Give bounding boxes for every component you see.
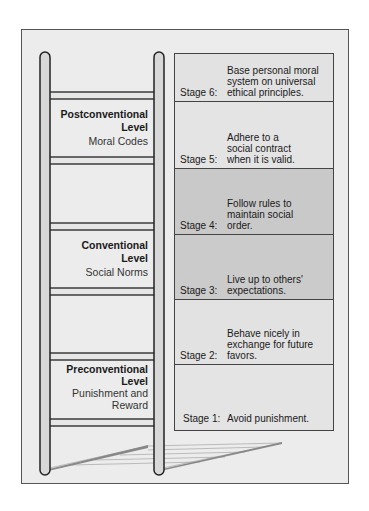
stage-3: Stage 3: Live up to others' expectations… [175, 235, 333, 300]
level-title-2: Level [81, 252, 148, 265]
stage-description: Avoid punishment. [227, 413, 332, 424]
stage-label: Stage 5: [180, 154, 217, 165]
level-title-2: Level [60, 121, 148, 134]
stage-label: Stage 2: [180, 350, 217, 361]
level-preconventional: Preconventional Level Punishment and Rew… [66, 363, 148, 411]
stage-description: Adhere to a social contract when it is v… [227, 132, 302, 165]
level-subtitle: Punishment and [66, 387, 148, 399]
stage-label: Stage 1: [183, 413, 220, 424]
level-postconventional: Postconventional Level Moral Codes [60, 108, 148, 148]
level-conventional: Conventional Level Social Norms [81, 239, 148, 279]
stage-5: Stage 5: Adhere to a social contract whe… [175, 102, 333, 169]
level-title: Preconventional [66, 363, 148, 375]
level-subtitle: Moral Codes [60, 135, 148, 148]
stage-label: Stage 3: [180, 285, 217, 296]
level-subtitle: Social Norms [81, 266, 148, 279]
level-subtitle-2: Reward [66, 399, 148, 411]
level-title: Conventional [81, 239, 148, 252]
stage-label: Stage 4: [180, 220, 217, 231]
level-title-2: Level [66, 375, 148, 387]
stage-label: Stage 6: [180, 87, 217, 98]
stage-description: Base personal moral system on universal … [227, 65, 332, 98]
stage-1: Stage 1: Avoid punishment. [175, 365, 333, 430]
stage-2: Stage 2: Behave nicely in exchange for f… [175, 300, 333, 365]
stage-description: Follow rules to maintain social order. [227, 198, 305, 231]
level-title: Postconventional [60, 108, 148, 121]
stage-description: Behave nicely in exchange for future fav… [227, 328, 332, 361]
stage-4: Stage 4: Follow rules to maintain social… [175, 169, 333, 235]
stages-panel: Stage 6: Base personal moral system on u… [174, 53, 334, 431]
stage-6: Stage 6: Base personal moral system on u… [175, 54, 333, 102]
stage-description: Live up to others' expectations. [227, 274, 317, 296]
